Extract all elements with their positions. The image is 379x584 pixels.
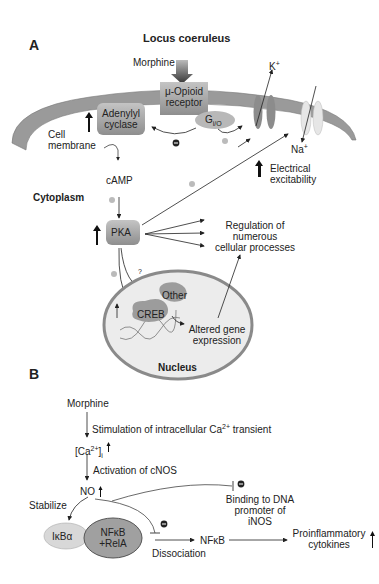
na-ion-label: Na+ (291, 141, 308, 155)
morphine-b-label: Morphine (67, 398, 109, 409)
up-arrow-icon (99, 486, 103, 497)
adenylyl-cyclase-label: Adenylylcyclase (97, 108, 145, 130)
locus-coeruleus-title: Locus coeruleus (143, 33, 230, 44)
panel-a-label: A (29, 40, 39, 51)
up-arrow-icon (370, 531, 375, 548)
k-ion-label: K+ (269, 58, 280, 72)
stimulation-label: Stimulation of intracellular Ca2+ transi… (92, 421, 271, 435)
other-label: Other (162, 290, 187, 301)
na-channel (301, 101, 311, 135)
stabilize-label: Stabilize (29, 500, 67, 511)
proinflammatory-cytokines-label: Proinflammatorycytokines (290, 528, 368, 550)
up-arrow-icon (93, 225, 101, 245)
camp-label: cAMP (106, 175, 133, 186)
plus-sign-icon (222, 138, 228, 144)
up-arrow-head-icon (255, 160, 263, 166)
ikba-label: IκBα (52, 531, 72, 542)
calcium-label: [Ca2+]i (75, 443, 103, 461)
creb-label: CREB (137, 309, 165, 320)
morphine-label: Morphine (133, 57, 175, 68)
cell-membrane-label: Cellmembrane (48, 129, 96, 151)
altered-gene-expression-label: Altered geneexpression (186, 324, 248, 346)
cytoplasm-label: Cytoplasm (33, 192, 84, 203)
question-mark: ? (138, 266, 142, 277)
electrical-excitability-label: Electricalexcitability (270, 163, 316, 185)
pka-label: PKA (111, 227, 131, 238)
nucleus-label: Nucleus (158, 362, 197, 373)
g-protein-label: Gi/O (205, 114, 222, 129)
no-label: NO (80, 486, 95, 497)
binding-dna-label: Binding to DNApromoter ofiNOS (220, 494, 300, 527)
regulation-label: Regulation ofnumerouscellular processes (210, 220, 300, 253)
opioid-receptor-label: μ-Opioidreceptor (160, 86, 208, 108)
dissociation-label: Dissociation (152, 548, 206, 559)
up-arrow-icon (107, 442, 111, 452)
panel-b-label: B (29, 369, 39, 380)
nfkb-label: NFκB (200, 535, 225, 546)
nfkb-rela-label: NFκB+RelA (88, 527, 138, 549)
activation-cnos-label: Activation of cNOS (93, 465, 177, 476)
k-channel (254, 95, 263, 129)
